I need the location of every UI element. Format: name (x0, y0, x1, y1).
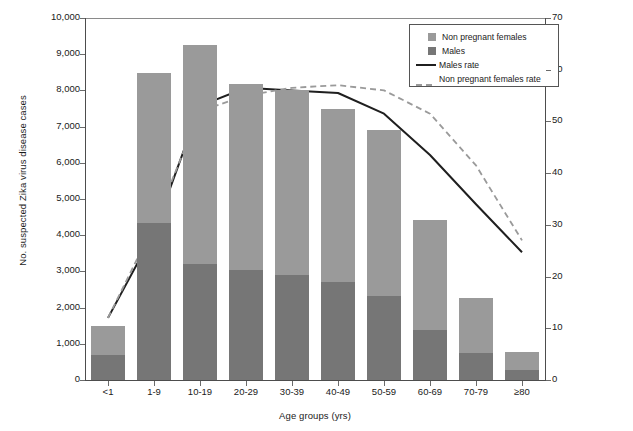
legend-label: Non pregnant females rate (439, 74, 541, 84)
legend-dashed-line-icon (416, 75, 436, 83)
legend-item: Non pregnant females (416, 30, 552, 43)
x-axis-tick-label: 20-29 (223, 386, 269, 397)
y-axis-left-tick-mark (80, 271, 85, 272)
bar-segment-non-pregnant-females (275, 90, 309, 275)
y-axis-left-tick-label: 5,000 (34, 192, 80, 203)
y-axis-left-tick-mark (80, 380, 85, 381)
y-axis-right-tick-mark (546, 18, 551, 19)
x-axis-tick-label: 70-79 (453, 386, 499, 397)
legend-item: Non pregnant females rate (416, 72, 552, 85)
legend-label: Males rate (439, 60, 479, 70)
legend-swatch-icon (428, 33, 436, 41)
y-axis-left-tick-mark (80, 127, 85, 128)
y-axis-left-tick-label: 0 (34, 373, 80, 384)
bar-segment-non-pregnant-females (229, 84, 263, 269)
chart-legend: Non pregnant femalesMalesMales rateNon p… (409, 24, 559, 87)
y-axis-left-title: No. suspected Zika virus disease cases (17, 16, 28, 346)
y-axis-left-tick-mark (80, 163, 85, 164)
stacked-bar (505, 352, 539, 380)
bar-segment-non-pregnant-females (91, 326, 125, 355)
y-axis-left-tick-label: 1,000 (34, 337, 80, 348)
legend-label: Non pregnant females (442, 32, 527, 42)
bar-segment-males (413, 330, 447, 380)
x-axis-tick-label: 60-69 (407, 386, 453, 397)
stacked-bar (413, 220, 447, 380)
y-axis-left-tick-label: 10,000 (34, 11, 80, 22)
x-axis-tick-label: 50-59 (361, 386, 407, 397)
bar-segment-non-pregnant-females (321, 109, 355, 282)
y-axis-left-tick-label: 9,000 (34, 47, 80, 58)
legend-solid-line-icon (416, 64, 436, 66)
y-axis-right-tick-label: 50 (552, 114, 592, 125)
y-axis-right-tick-mark (546, 277, 551, 278)
legend-item: Males rate (416, 58, 552, 71)
x-axis-tick-label: 40-49 (315, 386, 361, 397)
bar-segment-males (367, 296, 401, 380)
bar-segment-non-pregnant-females (505, 352, 539, 370)
bar-segment-males (275, 275, 309, 380)
bar-segment-non-pregnant-females (137, 73, 171, 223)
y-axis-left-tick-mark (80, 308, 85, 309)
y-axis-right-tick-label: 0 (552, 373, 592, 384)
y-axis-left-tick-mark (80, 54, 85, 55)
stacked-bar (91, 326, 125, 380)
stacked-bar (275, 90, 309, 380)
y-axis-left-tick-mark (80, 235, 85, 236)
bar-segment-males (229, 270, 263, 380)
legend-label: Males (442, 46, 465, 56)
y-axis-left-tick-label: 2,000 (34, 301, 80, 312)
bar-segment-males (321, 282, 355, 380)
x-axis-tick-label: 1-9 (131, 386, 177, 397)
bar-segment-males (91, 355, 125, 380)
legend-swatch-icon (428, 47, 436, 55)
bar-segment-males (183, 264, 217, 380)
legend-item: Males (416, 44, 552, 57)
y-axis-right-tick-label: 30 (552, 218, 592, 229)
y-axis-right-tick-mark (546, 173, 551, 174)
zika-age-distribution-chart: No. suspected Zika virus disease cases P… (0, 0, 633, 431)
bar-segment-males (137, 223, 171, 380)
bar-segment-non-pregnant-females (367, 130, 401, 296)
y-axis-left-tick-label: 4,000 (34, 228, 80, 239)
y-axis-right-tick-label: 20 (552, 270, 592, 281)
stacked-bar (321, 109, 355, 381)
y-axis-left-tick-label: 7,000 (34, 120, 80, 131)
y-axis-right-tick-label: 10 (552, 321, 592, 332)
y-axis-left-tick-mark (80, 344, 85, 345)
y-axis-right-tick-mark (546, 70, 551, 71)
y-axis-right-tick-mark (546, 225, 551, 226)
stacked-bar (183, 45, 217, 380)
x-axis-tick-label: ≥80 (499, 386, 545, 397)
x-axis-tick-label: 10-19 (177, 386, 223, 397)
y-axis-left-tick-label: 3,000 (34, 264, 80, 275)
y-axis-right-tick-label: 40 (552, 166, 592, 177)
y-axis-left-tick-label: 8,000 (34, 83, 80, 94)
stacked-bar (459, 298, 493, 380)
y-axis-left-tick-mark (80, 18, 85, 19)
bar-segment-males (459, 353, 493, 380)
y-axis-right-tick-mark (546, 121, 551, 122)
bar-segment-non-pregnant-females (413, 220, 447, 330)
x-axis-title: Age groups (yrs) (85, 410, 545, 421)
stacked-bar (229, 84, 263, 380)
stacked-bar (137, 73, 171, 380)
y-axis-right-tick-mark (546, 328, 551, 329)
bar-segment-non-pregnant-females (459, 298, 493, 353)
bar-segment-non-pregnant-females (183, 45, 217, 264)
y-axis-left-tick-mark (80, 199, 85, 200)
y-axis-left-tick-mark (80, 90, 85, 91)
y-axis-right-tick-mark (546, 380, 551, 381)
bar-segment-males (505, 370, 539, 380)
y-axis-right-tick-label: 70 (552, 11, 592, 22)
y-axis-left-ticks: 01,0002,0003,0004,0005,0006,0007,0008,00… (28, 0, 80, 431)
y-axis-left-tick-label: 6,000 (34, 156, 80, 167)
x-axis-tick-label: <1 (85, 386, 131, 397)
stacked-bar (367, 130, 401, 380)
x-axis-tick-label: 30-39 (269, 386, 315, 397)
